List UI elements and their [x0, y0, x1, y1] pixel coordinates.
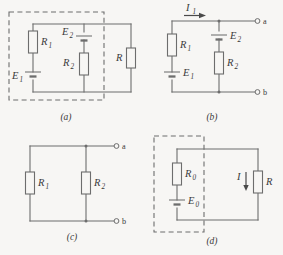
- panel-a-r1-subscript: 1: [49, 42, 53, 50]
- panel-d-r0-subscript: 0: [193, 174, 197, 182]
- panel-a-e2-subscript: 2: [70, 32, 74, 40]
- panel-b-r2-subscript: 2: [235, 63, 239, 71]
- panel-a: R 1 E 1 E 2 R 2 R (a): [9, 12, 136, 123]
- panel-c-top-junction: [85, 145, 88, 148]
- panel-b-r1-label: R: [179, 39, 187, 50]
- panel-b-terminal-b-label: b: [263, 88, 267, 97]
- panel-a-resistor-r1: [29, 31, 38, 53]
- circuit-figure: R 1 E 1 E 2 R 2 R (a): [0, 0, 283, 255]
- panel-b-top-junction: [218, 20, 221, 23]
- panel-c-terminal-b: [114, 219, 119, 224]
- panel-c-r1-subscript: 1: [46, 183, 50, 191]
- panel-d-resistor-r0: [173, 163, 182, 185]
- panel-a-e1-subscript: 1: [20, 76, 24, 84]
- panel-c: R 1 R 2 a b (c): [26, 142, 127, 243]
- panel-b-e1-subscript: 1: [191, 73, 195, 81]
- panel-b-e2-label: E: [229, 30, 237, 41]
- panel-b-e2-subscript: 2: [238, 36, 242, 44]
- panel-a-e2-label: E: [61, 26, 69, 37]
- panel-d-resistor-r: [254, 171, 263, 193]
- panel-d: R 0 E 0 R I (d): [154, 136, 273, 247]
- panel-c-r2-subscript: 2: [102, 183, 106, 191]
- panel-a-r2-subscript: 2: [71, 63, 75, 71]
- panel-b: I 1 R 1 E 1 E 2 R 2 a b (b): [164, 2, 267, 123]
- panel-a-r2-label: R: [62, 57, 70, 68]
- panel-b-bottom-junction: [218, 91, 221, 94]
- panel-b-terminal-a: [255, 19, 260, 24]
- panel-c-terminal-a: [114, 144, 119, 149]
- panel-b-resistor-r2: [215, 52, 224, 74]
- panel-a-resistor-r: [127, 48, 136, 68]
- panel-d-current-arrow-head: [243, 185, 248, 191]
- panel-b-current-subscript: 1: [193, 8, 197, 16]
- panel-b-current-label: I: [185, 2, 190, 13]
- panel-b-r1-subscript: 1: [188, 45, 192, 53]
- panel-d-r-label: R: [265, 176, 273, 187]
- panel-c-terminal-b-label: b: [122, 217, 126, 226]
- panel-d-e0-label: E: [187, 195, 195, 206]
- panel-a-dashed-enclosure: [9, 12, 104, 100]
- panel-b-caption: (b): [206, 112, 217, 123]
- panel-d-caption: (d): [206, 236, 217, 247]
- panel-d-r0-label: R: [184, 168, 192, 179]
- panel-a-resistor-r2: [80, 53, 89, 75]
- panel-a-r1-label: R: [40, 36, 48, 47]
- panel-c-resistor-r2: [82, 172, 91, 194]
- panel-c-r2-label: R: [93, 177, 101, 188]
- panel-c-resistor-r1: [26, 172, 35, 194]
- panel-a-e1-label: E: [11, 70, 19, 81]
- panel-b-current-arrow-head: [199, 13, 206, 18]
- panel-b-e1-label: E: [182, 67, 190, 78]
- panel-c-r1-label: R: [37, 177, 45, 188]
- panel-d-e0-subscript: 0: [196, 201, 200, 209]
- panel-c-bottom-junction: [85, 220, 88, 223]
- panel-b-terminal-b: [255, 90, 260, 95]
- panel-d-current-label: I: [236, 171, 241, 182]
- panel-b-terminal-a-label: a: [263, 17, 267, 26]
- panel-a-caption: (a): [60, 112, 71, 123]
- panel-a-r-label: R: [115, 52, 123, 63]
- panel-b-r2-label: R: [226, 57, 234, 68]
- panel-c-caption: (c): [67, 232, 78, 243]
- panel-b-resistor-r1: [168, 34, 177, 56]
- panel-c-terminal-a-label: a: [122, 142, 126, 151]
